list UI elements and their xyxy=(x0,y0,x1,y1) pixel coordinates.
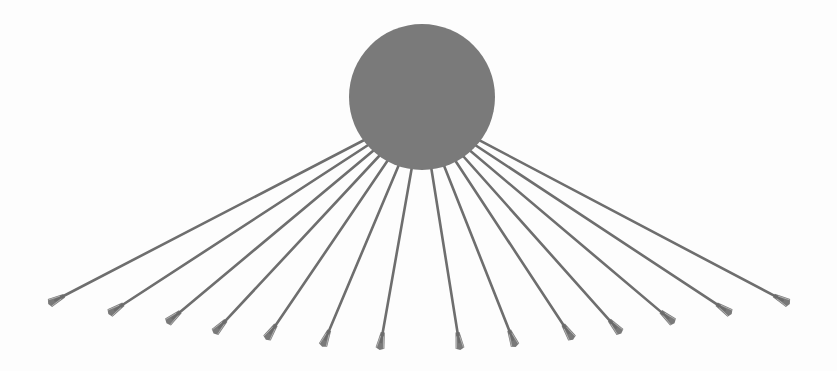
arrow-tip-icon xyxy=(212,319,228,335)
arrow-tip-icon xyxy=(608,319,624,335)
arrow-tip-icon xyxy=(48,294,65,307)
diagram-canvas xyxy=(0,0,837,371)
arrow-tip-icon xyxy=(319,330,331,347)
sun-rays-diagram xyxy=(0,0,837,371)
arrow-tip-icon xyxy=(716,303,733,317)
arrow-tip-icon xyxy=(660,310,676,325)
sun-circle xyxy=(349,24,495,170)
arrow-tip-icon xyxy=(562,324,576,341)
arrow-tip-icon xyxy=(773,294,790,307)
arrow-tip-icon xyxy=(108,303,125,317)
arrow-tip-icon xyxy=(507,329,519,347)
